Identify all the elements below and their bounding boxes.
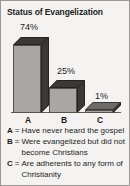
legend-text-b: Were evangelized but did not become Chri…	[21, 136, 127, 158]
legend-separator-b: =	[15, 136, 22, 147]
legend-separator-c: =	[15, 158, 22, 169]
bar-category-c	[85, 102, 113, 113]
legend-item-b: B = Were evangelized but did not become …	[7, 136, 127, 158]
bar-category-a	[13, 37, 41, 113]
legend-key-c: C	[7, 158, 15, 169]
x-tick-label-c: C	[90, 115, 110, 125]
bar-a-side-face	[41, 37, 49, 113]
bar-c-value-label: 1%	[95, 91, 108, 101]
chart-title: Status of Evangelization	[7, 7, 125, 17]
chart-plot-area: 74% 25% 1% A B C	[7, 21, 125, 123]
legend-key-b: B	[7, 136, 15, 147]
bar-a-value-label: 74%	[20, 22, 38, 32]
legend-key-a: A	[7, 125, 15, 136]
bar-b-front-face	[49, 88, 77, 113]
legend-text-a: Have never heard the gospel	[21, 125, 127, 136]
bar-b-side-face	[77, 80, 85, 113]
bar-a-front-face	[13, 45, 41, 113]
legend-item-c: C = Are adherents to any form of Christi…	[7, 158, 127, 180]
bar-b-value-label: 25%	[57, 66, 75, 76]
x-tick-label-a: A	[18, 115, 38, 125]
bar-c-front-face	[85, 110, 113, 113]
legend-separator-a: =	[15, 125, 22, 136]
chart-panel: Status of Evangelization 74% 25% 1% A B …	[0, 0, 130, 186]
bar-category-b	[49, 80, 77, 113]
legend-item-a: A = Have never heard the gospel	[7, 125, 127, 136]
chart-legend: A = Have never heard the gospel B = Were…	[7, 125, 127, 180]
legend-text-c: Are adherents to any form of Christianit…	[21, 158, 127, 180]
x-tick-label-b: B	[54, 115, 74, 125]
